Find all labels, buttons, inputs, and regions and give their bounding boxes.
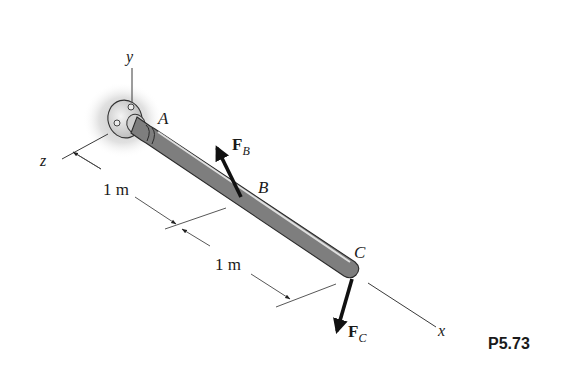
y-axis-label: y bbox=[124, 48, 134, 66]
statics-diagram: y z A B C x FB FC bbox=[0, 0, 563, 380]
z-axis-label: z bbox=[39, 152, 47, 169]
shaft bbox=[131, 117, 359, 278]
force-FB-label: FB bbox=[232, 135, 250, 158]
point-A-label: A bbox=[157, 109, 169, 128]
force-FC-label: FC bbox=[348, 322, 367, 345]
problem-number: P5.73 bbox=[488, 335, 530, 352]
point-B-label: B bbox=[258, 178, 269, 197]
x-axis bbox=[368, 283, 436, 327]
dimension-AB-label: 1 m bbox=[103, 180, 129, 199]
bolt-hole bbox=[128, 104, 134, 110]
force-FC: FC bbox=[337, 279, 367, 345]
x-axis-label: x bbox=[437, 322, 445, 339]
dimension-BC-label: 1 m bbox=[215, 255, 241, 274]
point-C-label: C bbox=[354, 243, 366, 262]
bolt-hole bbox=[114, 120, 120, 126]
